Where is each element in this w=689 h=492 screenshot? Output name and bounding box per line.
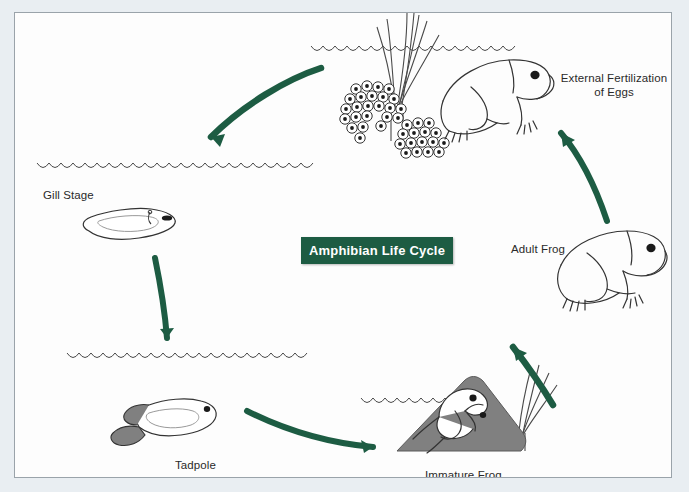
diagram-page: External Fertilizationof Eggs Adult Frog… <box>0 0 689 492</box>
label-external-line2: of Eggs <box>594 86 634 98</box>
gill-stage-larva <box>83 208 175 239</box>
label-external-line1: External Fertilization <box>561 72 667 84</box>
rock <box>397 377 526 452</box>
adult-frog <box>558 231 667 311</box>
tadpole <box>111 399 216 446</box>
label-external-fertilization: External Fertilizationof Eggs <box>539 71 672 99</box>
egg-cluster-upper <box>340 81 406 143</box>
gill-stage-eye <box>162 215 172 220</box>
water-line-tadpole <box>67 353 307 358</box>
arrow-adult-to-eggs <box>561 133 607 221</box>
immature-frog-eye <box>469 395 476 402</box>
adult-frog-eye <box>646 244 655 252</box>
water-line-gill <box>37 163 313 168</box>
arrow-immature-to-adult <box>513 347 553 405</box>
diagram-card: External Fertilizationof Eggs Adult Frog… <box>14 12 672 478</box>
label-tadpole: Tadpole <box>175 458 216 472</box>
arrow-eggs-to-gill <box>211 68 321 147</box>
title-text: Amphibian Life Cycle <box>309 243 445 258</box>
immature-frog-toe-dot <box>480 412 486 418</box>
egg-cluster-lower <box>395 118 449 158</box>
arrow-gill-to-tadpole <box>155 258 174 338</box>
label-adult-frog: Adult Frog <box>511 242 565 256</box>
tadpole-eye <box>204 406 210 412</box>
label-gill-stage: Gill Stage <box>43 188 94 202</box>
label-immature-frog: Immature Frog <box>425 468 502 478</box>
title-banner: Amphibian Life Cycle <box>301 237 453 264</box>
arrow-tadpole-to-immature <box>247 411 373 453</box>
